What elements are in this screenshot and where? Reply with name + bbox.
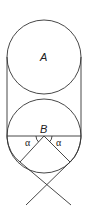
label-a: A	[39, 51, 47, 63]
right-angle-arc	[49, 136, 52, 142]
left-belt-curve	[7, 138, 71, 205]
belt-pulley-diagram: A B α α	[0, 0, 87, 215]
label-alpha-right: α	[56, 137, 62, 148]
label-b: B	[40, 123, 47, 135]
left-angle-arc	[36, 136, 39, 142]
label-alpha-left: α	[25, 137, 31, 148]
left-angle-line	[20, 136, 44, 162]
